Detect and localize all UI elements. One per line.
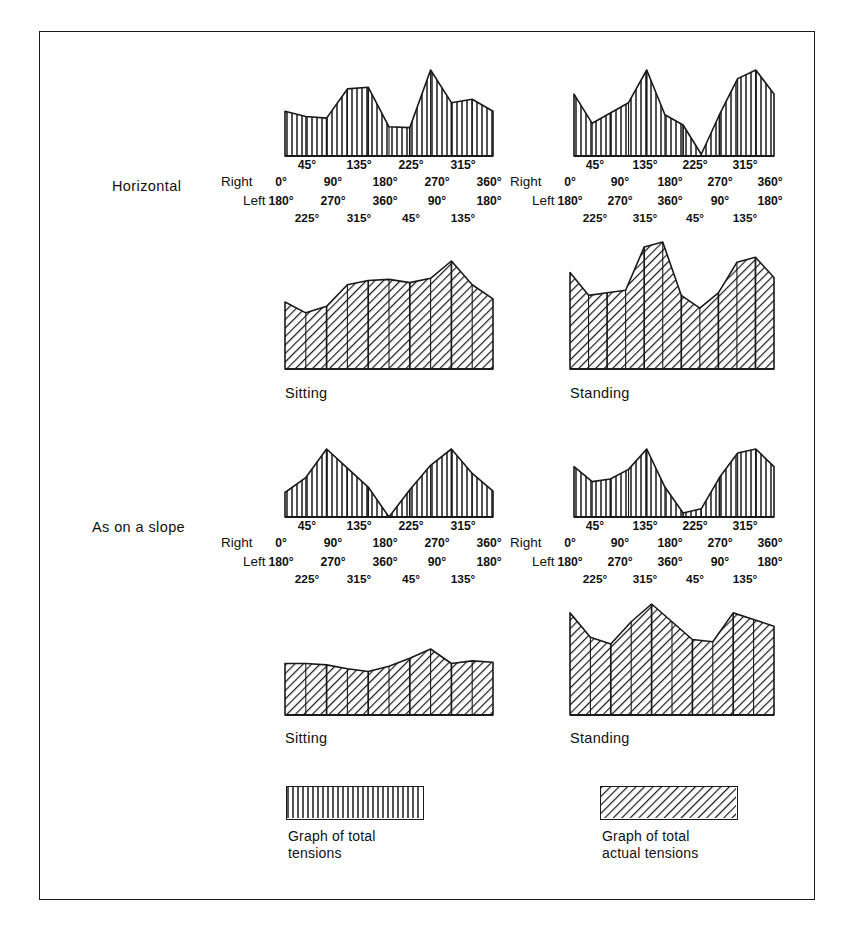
row-label-as-on-a-slope: As on a slope — [92, 519, 185, 535]
tick-left-0: 180° — [268, 194, 293, 208]
tick-right-2: 180° — [657, 175, 682, 189]
tick-left-lower-2: 45° — [402, 572, 420, 586]
tick-right-3: 270° — [424, 175, 449, 189]
tick-right-3: 270° — [424, 536, 449, 550]
legend-swatch-total-tensions — [286, 786, 424, 820]
area-plot-horizontal-sitting — [281, 255, 497, 373]
area-fill — [570, 242, 774, 369]
tick-right-3: 270° — [707, 536, 732, 550]
tick-right-4: 360° — [757, 175, 782, 189]
chart-panel-slope-standing — [566, 598, 778, 719]
tick-left-lower-3: 135° — [733, 572, 757, 586]
tick-left-2: 360° — [372, 555, 397, 569]
chart-panel-slope-sitting — [281, 643, 497, 719]
tick-left-lower-3: 135° — [733, 211, 757, 225]
tick-left-3: 90° — [711, 555, 729, 569]
tick-left-4: 180° — [757, 555, 782, 569]
tick-left-lower-3: 135° — [451, 572, 475, 586]
tick-upper-225: 225° — [398, 158, 423, 172]
area-fill — [574, 70, 774, 156]
tick-upper-45: 45° — [298, 158, 316, 172]
chart-panel-slope-total-tensions — [281, 443, 497, 521]
area-plot-horizontal-total-actual-tensions — [570, 64, 778, 160]
chart-panel-horizontal-standing — [566, 236, 778, 373]
axis-side-label-right: Right — [221, 535, 253, 550]
tick-right-4: 360° — [757, 536, 782, 550]
tick-left-4: 180° — [476, 555, 501, 569]
tick-right-2: 180° — [657, 536, 682, 550]
tick-upper-45: 45° — [298, 519, 316, 533]
tick-left-1: 270° — [320, 555, 345, 569]
tick-left-lower-2: 45° — [686, 211, 704, 225]
caption-standing-slope: Standing — [570, 730, 630, 746]
tick-left-3: 90° — [428, 555, 446, 569]
tick-upper-135: 135° — [346, 519, 371, 533]
area-plot-slope-total-tensions — [281, 443, 497, 521]
chart-panel-horizontal-total-tensions — [281, 64, 497, 160]
area-plot-slope-total-actual-tensions — [570, 443, 778, 521]
row-label-horizontal: Horizontal — [112, 178, 181, 194]
area-fill — [285, 449, 493, 517]
chart-panel-slope-total-actual-tensions — [570, 443, 778, 521]
tick-left-0: 180° — [268, 555, 293, 569]
tick-upper-45: 45° — [586, 519, 604, 533]
area-fill — [574, 449, 774, 517]
tick-left-2: 360° — [657, 194, 682, 208]
tick-upper-135: 135° — [346, 158, 371, 172]
tick-upper-315: 315° — [732, 519, 757, 533]
legend-label-line2: actual tensions — [602, 845, 698, 862]
caption-sitting-horizontal: Sitting — [285, 385, 327, 401]
axis-side-label-left: Left — [532, 554, 555, 569]
figure-root: 45°135°225°315°0°90°180°270°360°180°270°… — [0, 0, 851, 933]
tick-right-2: 180° — [372, 536, 397, 550]
axis-side-label-right: Right — [221, 174, 253, 189]
area-plot-slope-sitting — [281, 643, 497, 719]
tick-left-lower-1: 315° — [633, 211, 657, 225]
legend-label-line2: tensions — [288, 845, 376, 862]
legend-label-line1: Graph of total — [602, 828, 698, 845]
tick-left-lower-1: 315° — [633, 572, 657, 586]
legend-swatch-fill — [287, 787, 422, 818]
tick-right-0: 0° — [564, 175, 576, 189]
axis-side-label-left: Left — [532, 193, 555, 208]
tick-right-1: 90° — [611, 175, 629, 189]
tick-left-lower-2: 45° — [686, 572, 704, 586]
tick-left-lower-2: 45° — [402, 211, 420, 225]
tick-right-4: 360° — [476, 175, 501, 189]
tick-upper-135: 135° — [632, 519, 657, 533]
tick-left-2: 360° — [372, 194, 397, 208]
tick-left-lower-0: 225° — [583, 211, 607, 225]
tick-upper-225: 225° — [682, 519, 707, 533]
tick-right-2: 180° — [372, 175, 397, 189]
tick-right-0: 0° — [275, 175, 287, 189]
axis-side-label-left: Left — [243, 554, 266, 569]
tick-left-lower-0: 225° — [295, 211, 319, 225]
caption-standing-horizontal: Standing — [570, 385, 630, 401]
chart-panel-horizontal-total-actual-tensions — [570, 64, 778, 160]
tick-right-1: 90° — [324, 175, 342, 189]
tick-left-lower-0: 225° — [583, 572, 607, 586]
area-plot-slope-standing — [566, 598, 778, 719]
tick-left-0: 180° — [557, 555, 582, 569]
legend-label-total-actual-tensions: Graph of totalactual tensions — [602, 828, 698, 862]
tick-upper-135: 135° — [632, 158, 657, 172]
legend-label-total-tensions: Graph of totaltensions — [288, 828, 376, 862]
tick-left-1: 270° — [607, 194, 632, 208]
legend-swatch-fill — [601, 787, 736, 818]
axis-side-label-left: Left — [243, 193, 266, 208]
tick-upper-315: 315° — [450, 519, 475, 533]
area-plot-horizontal-standing — [566, 236, 778, 373]
tick-left-lower-0: 225° — [295, 572, 319, 586]
tick-left-4: 180° — [476, 194, 501, 208]
tick-left-4: 180° — [757, 194, 782, 208]
axis-side-label-right: Right — [510, 535, 542, 550]
tick-right-1: 90° — [324, 536, 342, 550]
axis-side-label-right: Right — [510, 174, 542, 189]
caption-sitting-slope: Sitting — [285, 730, 327, 746]
tick-upper-315: 315° — [732, 158, 757, 172]
tick-left-lower-1: 315° — [347, 211, 371, 225]
area-plot-horizontal-total-tensions — [281, 64, 497, 160]
tick-left-3: 90° — [711, 194, 729, 208]
tick-left-1: 270° — [320, 194, 345, 208]
legend-swatch-total-actual-tensions — [600, 786, 738, 820]
